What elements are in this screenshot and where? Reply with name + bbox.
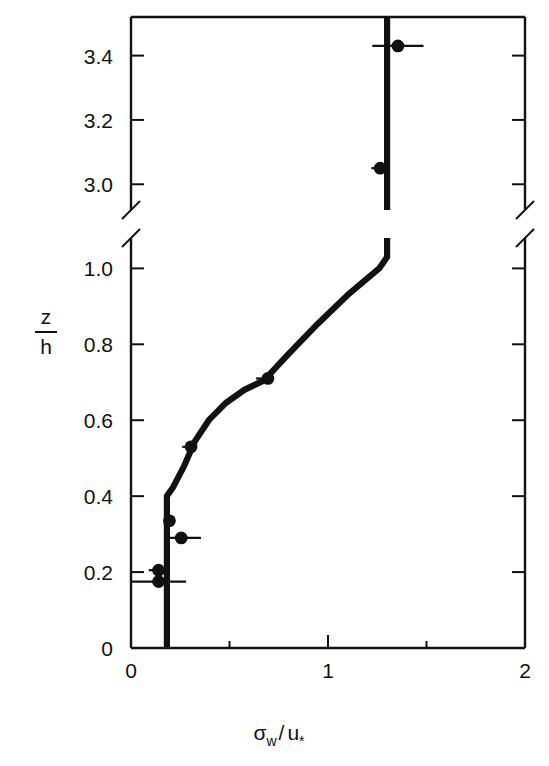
profile-chart: zh σw/u* 00.20.40.60.81.03.03.23.4 012 <box>0 0 549 766</box>
data-point <box>175 532 188 545</box>
y-tick-label: 3.4 <box>84 45 114 68</box>
figure-panel: zh σw/u* 00.20.40.60.81.03.03.23.4 012 <box>0 0 549 766</box>
y-tick-label: 3.2 <box>84 109 113 132</box>
data-point <box>185 440 198 453</box>
data-point <box>262 372 275 385</box>
x-tick-label: 1 <box>322 659 334 682</box>
y-tick-label: 3.0 <box>84 173 113 196</box>
data-point <box>374 162 387 175</box>
data-point <box>392 40 405 53</box>
y-axis-label-denominator: h <box>40 335 52 358</box>
y-tick-label: 0.4 <box>84 485 114 508</box>
y-tick-label: 0 <box>101 637 113 660</box>
data-point <box>152 575 165 588</box>
data-point <box>152 564 165 577</box>
y-tick-label: 0.6 <box>84 409 113 432</box>
y-axis-label-numerator: z <box>41 305 52 328</box>
y-tick-label: 0.8 <box>84 333 113 356</box>
x-tick-label: 2 <box>519 659 531 682</box>
chart-background <box>0 0 549 766</box>
x-tick-label: 0 <box>125 659 137 682</box>
y-tick-label: 1.0 <box>84 257 113 280</box>
data-point <box>163 514 176 527</box>
y-tick-label: 0.2 <box>84 561 113 584</box>
